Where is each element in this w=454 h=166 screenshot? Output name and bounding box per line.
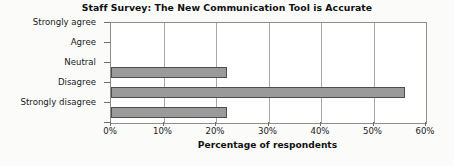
y-tick-mark [104,102,110,103]
x-tick-label: 20% [192,126,238,136]
y-tick-mark [104,22,110,23]
x-tick-label: 30% [245,126,291,136]
bar-disagree [111,87,405,98]
bar-row [111,23,426,43]
x-tick-label: 50% [350,126,396,136]
y-tick-label: Neutral [0,57,96,67]
y-tick-mark [104,42,110,43]
plot-area [110,22,427,124]
x-tick-label: 60% [402,126,448,136]
bar-row [111,83,426,103]
x-axis-title: Percentage of respondents [110,140,425,150]
bar-neutral [111,67,227,78]
bar-strongly-disagree [111,107,227,118]
bar-row [111,63,426,83]
bar-row [111,43,426,63]
x-tick-label: 0% [87,126,133,136]
y-axis: Strongly agreeAgreeNeutralDisagreeStrong… [0,0,106,166]
bar-chart: Staff Survey: The New Communication Tool… [0,0,454,166]
y-tick-label: Strongly disagree [0,97,96,107]
x-tick-label: 40% [297,126,343,136]
bar-row [111,103,426,123]
x-tick-label: 10% [140,126,186,136]
y-tick-mark [104,62,110,63]
y-tick-mark [104,82,110,83]
y-tick-label: Agree [0,37,96,47]
y-tick-label: Strongly agree [0,17,96,27]
y-tick-label: Disagree [0,77,96,87]
